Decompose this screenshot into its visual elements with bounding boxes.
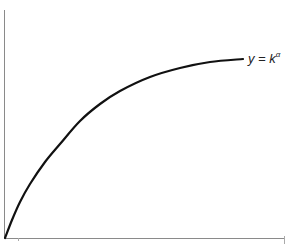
curve-label: y = kα	[248, 52, 280, 65]
curve-label-exponent: α	[276, 50, 281, 59]
chart-plot-area	[0, 0, 286, 247]
curve-label-base: y = k	[248, 51, 276, 66]
curve-line	[5, 59, 243, 238]
